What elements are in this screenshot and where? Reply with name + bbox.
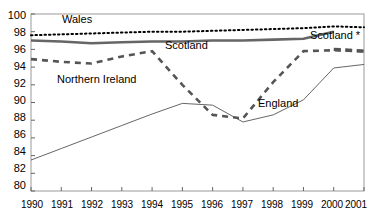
xtick-label: 1993 <box>107 199 137 210</box>
ytick-label: 98 <box>0 26 26 38</box>
xtick-label: 1995 <box>167 199 197 210</box>
series-label-wales: Wales <box>62 13 92 25</box>
xtick-label: 1997 <box>227 199 257 210</box>
ytick-label: 82 <box>0 162 26 174</box>
series-label-northern-ireland: Northern Ireland <box>57 73 137 85</box>
ytick-label: 90 <box>0 94 26 106</box>
xtick-label: 1994 <box>137 199 167 210</box>
xtick-label: 1998 <box>257 199 287 210</box>
xtick-label: 1999 <box>287 199 317 210</box>
xtick-label: 1992 <box>77 199 107 210</box>
xtick-label: 1991 <box>47 199 77 210</box>
ytick-label: 86 <box>0 128 26 140</box>
ytick-label: 88 <box>0 111 26 123</box>
xtick-label: 2001 <box>341 199 371 210</box>
ytick-label: 100 <box>0 9 26 21</box>
series-label-scotland: Scotland <box>165 39 208 51</box>
line-chart: 100 98 96 94 92 90 88 86 84 82 80 1990 1… <box>0 0 371 223</box>
ytick-label: 80 <box>0 179 26 191</box>
ytick-label: 92 <box>0 77 26 89</box>
xtick-label: 1990 <box>17 199 47 210</box>
series-label-england: England <box>258 97 298 109</box>
xtick-label: 1996 <box>197 199 227 210</box>
ytick-label: 94 <box>0 60 26 72</box>
ytick-label: 84 <box>0 145 26 157</box>
series-label-scotland-note: Scotland * <box>310 29 360 41</box>
ytick-label: 96 <box>0 43 26 55</box>
